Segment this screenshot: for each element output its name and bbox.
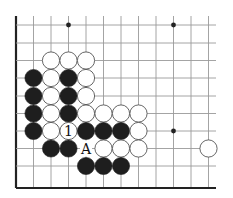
black-stone (77, 157, 94, 174)
white-stone (77, 87, 94, 104)
white-stone (95, 105, 112, 122)
black-stone (25, 87, 42, 104)
go-board: 1 A (0, 0, 233, 198)
white-stone (200, 140, 217, 157)
white-stone (42, 69, 59, 86)
move-number-label: 1 (64, 123, 73, 139)
black-stone (112, 157, 129, 174)
black-stone (42, 140, 59, 157)
black-stone (60, 87, 77, 104)
white-stone (77, 52, 94, 69)
black-stone (112, 122, 129, 139)
white-stone (95, 140, 112, 157)
point-label-a: A (80, 141, 92, 157)
black-stone (60, 140, 77, 157)
black-stone (77, 122, 94, 139)
black-stone (60, 69, 77, 86)
white-stone (112, 140, 129, 157)
white-stone (77, 105, 94, 122)
black-stone (25, 105, 42, 122)
white-stone (130, 140, 147, 157)
black-stone (95, 157, 112, 174)
black-stone (25, 69, 42, 86)
white-stone (42, 87, 59, 104)
black-stone (25, 122, 42, 139)
star-point-icon (171, 129, 176, 134)
point-labels: A (80, 141, 92, 157)
white-stone (42, 52, 59, 69)
white-stone (112, 105, 129, 122)
white-stone (77, 69, 94, 86)
star-point-icon (171, 23, 176, 28)
white-stone (60, 52, 77, 69)
black-stone (60, 105, 77, 122)
black-stone (95, 122, 112, 139)
white-stone (42, 122, 59, 139)
white-stone (42, 105, 59, 122)
white-stone (130, 105, 147, 122)
white-stone (130, 122, 147, 139)
star-point-icon (66, 23, 71, 28)
